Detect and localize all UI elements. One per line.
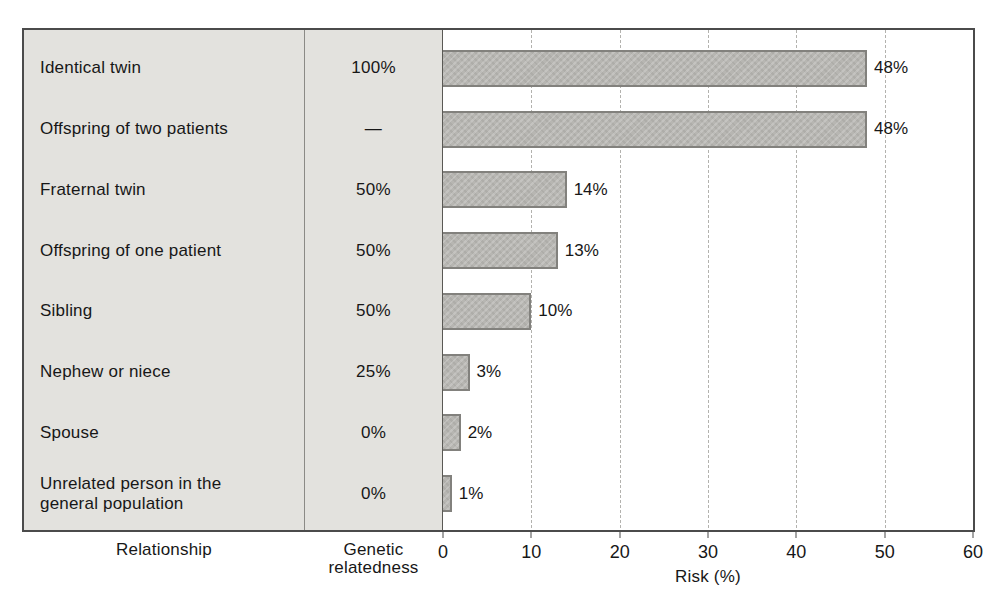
risk-value-label: 2%	[468, 423, 493, 443]
relatedness-row: 25%	[305, 342, 442, 403]
risk-bar-row: 3%	[443, 342, 973, 403]
relationship-row: Spouse	[24, 403, 304, 464]
relatedness-row: 0%	[305, 463, 442, 524]
risk-bar	[443, 414, 461, 451]
relatedness-row: 50%	[305, 220, 442, 281]
x-tick-mark-60	[973, 532, 974, 538]
risk-bar-row: 48%	[443, 38, 973, 99]
x-tick-mark-10	[531, 532, 532, 538]
risk-value-label: 14%	[574, 180, 608, 200]
relatedness-axis-label-line2: relatedness	[328, 558, 418, 577]
relationship-row: Identical twin	[24, 38, 304, 99]
relationship-label: Fraternal twin	[40, 180, 146, 200]
x-tick-label-30: 30	[698, 542, 718, 563]
relationship-row: Fraternal twin	[24, 160, 304, 221]
risk-value-label: 10%	[538, 301, 572, 321]
relationship-row: Sibling	[24, 281, 304, 342]
relationship-row: Offspring of one patient	[24, 220, 304, 281]
relatedness-value: 50%	[356, 301, 391, 321]
relationship-row: Offspring of two patients	[24, 99, 304, 160]
relationship-label: Spouse	[40, 423, 99, 443]
relationship-label: Sibling	[40, 301, 92, 321]
relatedness-value: 100%	[351, 58, 396, 78]
x-axis-title: Risk (%)	[675, 567, 741, 587]
relationship-axis-label: Relationship	[24, 541, 304, 559]
relatedness-value: 25%	[356, 362, 391, 382]
risk-bar	[443, 171, 567, 208]
risk-bar-row: 1%	[443, 463, 973, 524]
relatedness-row: 0%	[305, 403, 442, 464]
figure-box: Identical twinOffspring of two patientsF…	[22, 28, 975, 532]
risk-bar	[443, 354, 470, 391]
x-axis: Risk (%) 0102030405060	[443, 532, 973, 590]
x-tick-label-40: 40	[786, 542, 806, 563]
x-tick-mark-30	[708, 532, 709, 538]
relatedness-row: 100%	[305, 38, 442, 99]
x-tick-label-60: 60	[963, 542, 983, 563]
x-tick-label-0: 0	[438, 542, 448, 563]
relationship-column: Identical twinOffspring of two patientsF…	[24, 30, 305, 530]
risk-value-label: 48%	[874, 58, 908, 78]
x-tick-mark-40	[796, 532, 797, 538]
relationship-rows: Identical twinOffspring of two patientsF…	[24, 30, 304, 530]
chart-area: 48%48%14%13%10%3%2%1% Risk (%) 010203040…	[443, 30, 973, 530]
risk-value-label: 1%	[459, 484, 484, 504]
x-tick-mark-20	[619, 532, 620, 538]
relatedness-value: 50%	[356, 241, 391, 261]
relationship-row: Nephew or niece	[24, 342, 304, 403]
relatedness-column: 100%—50%50%50%25%0%0% Genetic relatednes…	[305, 30, 443, 530]
risk-bar-row: 10%	[443, 281, 973, 342]
risk-bar	[443, 50, 867, 87]
x-tick-mark-0	[443, 532, 444, 538]
relationship-row: Unrelated person in the general populati…	[24, 463, 304, 524]
relatedness-value: 0%	[361, 484, 386, 504]
x-tick-mark-50	[884, 532, 885, 538]
relationship-label: Identical twin	[40, 58, 141, 78]
risk-bar-row: 14%	[443, 160, 973, 221]
figure-canvas: Identical twinOffspring of two patientsF…	[0, 0, 995, 593]
relatedness-axis-label-line1: Genetic	[344, 540, 404, 559]
relatedness-row: 50%	[305, 160, 442, 221]
risk-bar	[443, 232, 558, 269]
relationship-label: Offspring of one patient	[40, 241, 221, 261]
x-tick-label-20: 20	[610, 542, 630, 563]
bar-rows: 48%48%14%13%10%3%2%1%	[443, 30, 973, 530]
relationship-label: Offspring of two patients	[40, 119, 228, 139]
risk-bar-row: 48%	[443, 99, 973, 160]
x-tick-label-50: 50	[875, 542, 895, 563]
risk-bar-row: 2%	[443, 403, 973, 464]
risk-value-label: 3%	[477, 362, 502, 382]
relatedness-rows: 100%—50%50%50%25%0%0%	[305, 30, 442, 530]
relationship-label: Nephew or niece	[40, 362, 171, 382]
relatedness-value: —	[365, 119, 382, 139]
relatedness-row: 50%	[305, 281, 442, 342]
risk-value-label: 48%	[874, 119, 908, 139]
risk-value-label: 13%	[565, 241, 599, 261]
risk-bar-row: 13%	[443, 220, 973, 281]
relatedness-axis-label: Genetic relatedness	[305, 541, 442, 577]
risk-bar	[443, 111, 867, 148]
relationship-label: Unrelated person in the general populati…	[40, 474, 245, 514]
relatedness-value: 0%	[361, 423, 386, 443]
relatedness-row: —	[305, 99, 442, 160]
relatedness-value: 50%	[356, 180, 391, 200]
risk-bar	[443, 293, 531, 330]
x-tick-label-10: 10	[521, 542, 541, 563]
risk-bar	[443, 475, 452, 512]
